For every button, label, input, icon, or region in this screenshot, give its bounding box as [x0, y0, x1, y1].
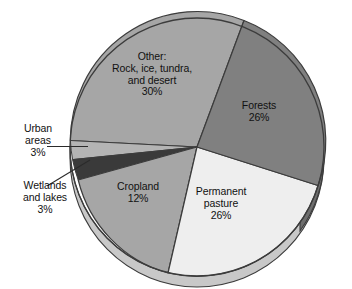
pie-label-urban-line2: areas — [10, 135, 66, 147]
pie-label-pasture-percent: 26% — [178, 210, 264, 222]
pie-label-wetlands-and-lakes: Wetlands and lakes 3% — [2, 180, 88, 215]
pie-label-urban-areas: Urban areas 3% — [10, 123, 66, 158]
pie-label-urban-percent: 3% — [10, 147, 66, 159]
pie-label-cropland: Cropland 12% — [102, 181, 174, 205]
pie-label-forests: Forests 26% — [219, 100, 299, 124]
pie-label-other: Other: Rock, ice, tundra, and desert 30% — [96, 51, 208, 98]
pie-label-forests-percent: 26% — [219, 112, 299, 124]
pie-label-wetlands-percent: 3% — [2, 204, 88, 216]
pie-label-cropland-percent: 12% — [102, 193, 174, 205]
pie-label-permanent-pasture: Permanent pasture 26% — [178, 186, 264, 221]
pie-label-pasture-line2: pasture — [178, 198, 264, 210]
pie-label-other-percent: 30% — [96, 86, 208, 98]
pie-label-other-line2: Rock, ice, tundra, — [96, 63, 208, 75]
pie-chart: Other: Rock, ice, tundra, and desert 30%… — [0, 0, 352, 289]
pie-label-wetlands-line2: and lakes — [2, 192, 88, 204]
